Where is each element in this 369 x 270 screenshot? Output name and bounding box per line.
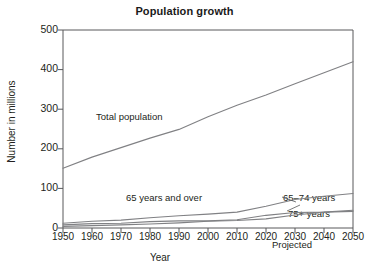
series-line-65-years-and-over <box>63 194 353 224</box>
series-line-65-74-years <box>63 210 353 225</box>
series-line-total-population <box>63 62 353 169</box>
population-growth-chart: Population growth Number in millions Yea… <box>0 0 369 270</box>
leader-line-75-plus <box>287 205 300 211</box>
y-axis-ticks <box>58 30 63 228</box>
plot-area <box>0 0 369 270</box>
x-axis-ticks <box>63 228 353 233</box>
series-lines <box>63 62 353 227</box>
